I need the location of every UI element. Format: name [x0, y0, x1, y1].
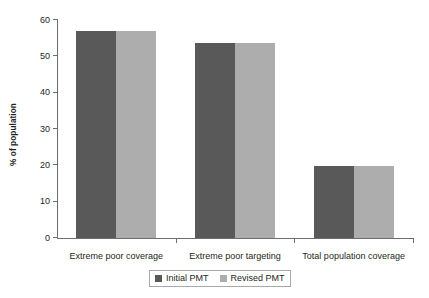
bar [354, 166, 394, 238]
y-tick-mark [53, 19, 57, 20]
y-axis-line [57, 19, 58, 239]
y-tick-label: 30 [40, 123, 50, 135]
y-tick-mark [53, 55, 57, 56]
y-tick-mark [53, 237, 57, 238]
bar [116, 31, 156, 238]
y-tick-mark [53, 128, 57, 129]
x-axis-tick [176, 238, 177, 243]
y-tick-label: 10 [40, 195, 50, 207]
y-tick-mark [53, 92, 57, 93]
x-axis-category-label: Extreme poor coverage [57, 250, 176, 262]
y-tick-mark [53, 164, 57, 165]
legend-label: Revised PMT [231, 273, 285, 284]
x-axis-category-label: Extreme poor targeting [176, 250, 295, 262]
legend: Initial PMTRevised PMT [149, 270, 291, 287]
y-tick-mark [53, 201, 57, 202]
legend-entry: Revised PMT [220, 273, 285, 284]
bar [76, 31, 116, 238]
y-tick-label: 40 [40, 86, 50, 98]
y-tick-label: 50 [40, 50, 50, 62]
y-tick-label: 0 [45, 232, 50, 244]
y-tick-label: 60 [40, 14, 50, 26]
bar-chart: % of population 0102030405060 Extreme po… [0, 0, 429, 298]
legend-swatch-icon [155, 275, 162, 282]
bar [195, 43, 235, 238]
y-axis-title: % of population [9, 75, 18, 195]
bar [235, 43, 275, 238]
legend-label: Initial PMT [166, 273, 209, 284]
x-axis-tick [294, 238, 295, 243]
legend-entry: Initial PMT [155, 273, 209, 284]
x-axis-category-label: Total population coverage [294, 250, 413, 262]
x-axis-tick [413, 238, 414, 243]
y-tick-label: 20 [40, 159, 50, 171]
legend-swatch-icon [220, 275, 227, 282]
x-axis-line [57, 238, 413, 239]
bar [314, 166, 354, 238]
